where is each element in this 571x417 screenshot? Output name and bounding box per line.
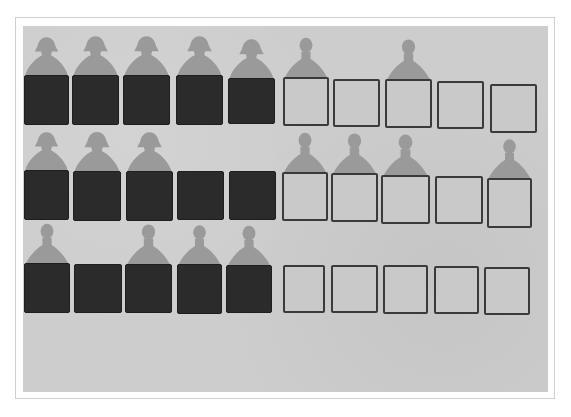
dark-square [73, 171, 121, 221]
light-square [282, 172, 328, 221]
light-square [484, 267, 530, 315]
dark-square [123, 75, 170, 125]
light-square [333, 79, 380, 127]
dark-square [177, 171, 224, 220]
dark-square [125, 264, 172, 313]
light-square [487, 178, 532, 228]
light-square [490, 84, 537, 133]
light-square [383, 265, 428, 314]
light-square [385, 79, 432, 128]
dark-square [177, 264, 222, 314]
light-square [331, 265, 378, 313]
dark-square [24, 170, 69, 220]
light-square [434, 266, 479, 314]
light-square [381, 175, 430, 224]
dark-square [226, 265, 272, 313]
light-square [283, 265, 325, 313]
dark-square [228, 78, 275, 124]
dark-square [229, 171, 276, 220]
light-square [435, 176, 483, 224]
dark-square [74, 264, 122, 313]
light-square [437, 81, 484, 129]
dark-square [24, 75, 69, 125]
light-square [283, 77, 329, 126]
light-square [331, 173, 378, 222]
dark-square [126, 171, 173, 221]
dark-square [72, 75, 119, 125]
dark-square [24, 263, 70, 313]
dark-square [176, 75, 223, 125]
photograph [23, 26, 548, 392]
